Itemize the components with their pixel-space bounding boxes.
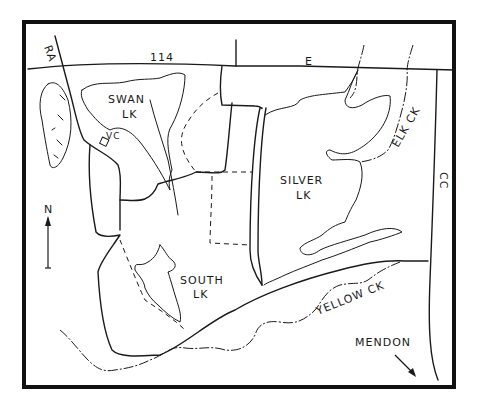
silver-road-inner <box>250 108 262 285</box>
label-mendon: MENDON <box>355 336 411 349</box>
label-yellow-creek: YELLOW CK <box>313 279 386 319</box>
label-silver-lake-2: LK <box>296 189 311 202</box>
label-north: N <box>44 203 53 216</box>
west-pond-hatching <box>52 95 65 158</box>
road-box <box>221 66 263 109</box>
silver-road-outer <box>258 108 266 285</box>
swan-outlet-creek <box>150 100 178 215</box>
west-pond <box>40 83 71 168</box>
label-south-lake-2: LK <box>193 288 208 301</box>
label-visitor-center: VC <box>106 131 120 141</box>
label-south-lake-1: SOUTH <box>180 274 224 287</box>
swan-lake <box>81 73 185 190</box>
route-114-road <box>28 64 455 70</box>
refuge-map: 114 E RA CC SWAN LK VC SILVER LK SOUTH L… <box>0 0 483 411</box>
label-swan-lake-1: SWAN <box>108 93 145 106</box>
north-arrow-head <box>45 216 51 226</box>
trail-swan <box>181 93 218 172</box>
label-route-114: 114 <box>150 51 174 64</box>
elk-creek <box>350 45 413 162</box>
yellow-creek <box>60 262 400 371</box>
label-route-ra: RA <box>41 44 59 64</box>
trail-box <box>210 176 250 245</box>
route-cc-road <box>429 70 438 380</box>
label-route-cc: CC <box>437 172 450 189</box>
label-route-e: E <box>305 55 313 68</box>
trail-south <box>120 240 185 330</box>
map-border <box>24 22 454 387</box>
label-elk-creek: ELK CK <box>389 104 423 149</box>
south-lake <box>135 245 181 322</box>
label-silver-lake-1: SILVER <box>280 174 323 187</box>
label-swan-lake-2: LK <box>122 108 137 121</box>
